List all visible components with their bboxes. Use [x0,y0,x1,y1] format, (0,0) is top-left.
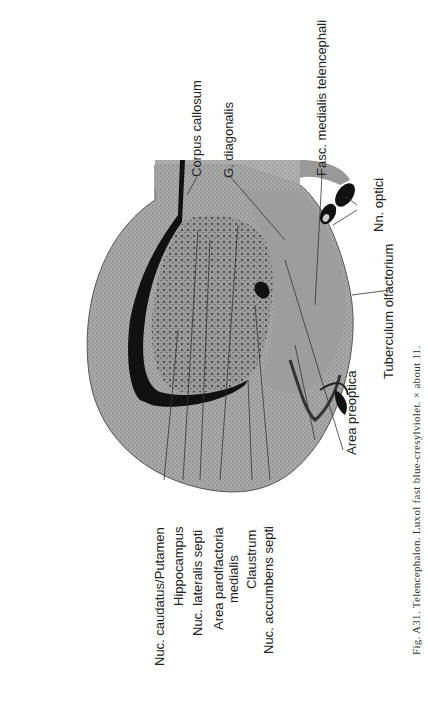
label-area-preoptica: Area preoptica [345,370,359,455]
label-g-diagonalis: G. diagonalis [222,102,236,178]
label-area-parolfactoria-medialis: medialis [227,555,241,603]
tissue-section [87,160,359,492]
figure-caption: Fig. A31. Telencephalon. Luxol fast blue… [410,345,422,655]
label-nuc-lateralis-septi: Nuc. lateralis septi [191,530,205,636]
label-hippocampus: Hippocampus [172,527,186,607]
label-area-parolfactoria: Area parolfactoria [212,527,226,630]
label-nn-optici: Nn. optici [372,178,386,232]
label-nuc-accumbens-septi: Nuc. accumbens septi [262,526,276,654]
label-tuberculum-olfactorium: Tuberculum olfactorium [382,244,396,379]
label-claustrum: Claustrum [245,530,259,589]
label-fasc-medialis-telencephali: Fasc. medialis telencephali [315,20,329,176]
label-corpus-callosum: Corpus callosum [190,80,204,177]
label-nuc-caudatus-putamen: Nuc. caudatus/Putamen [153,527,167,666]
